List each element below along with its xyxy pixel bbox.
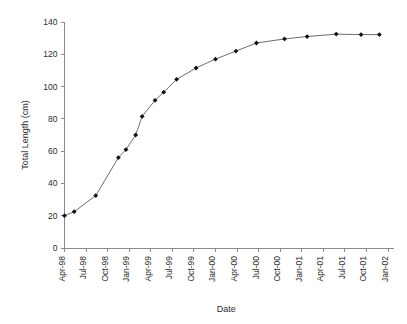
x-tick-label: Oct-01 (358, 256, 368, 282)
data-point-marker (377, 32, 382, 37)
x-tick-label: Apr-00 (229, 256, 239, 282)
data-point-marker (334, 32, 339, 37)
data-point-marker (254, 41, 259, 46)
y-tick-label: 140 (43, 17, 57, 27)
y-tick-label: 100 (43, 82, 57, 92)
x-tick-label: Jul-01 (337, 256, 347, 279)
x-tick-label: Apr-99 (143, 256, 153, 282)
x-tick-label: Jan-99 (121, 256, 131, 282)
data-point-marker (62, 213, 67, 218)
x-tick-label: Jul-00 (251, 256, 261, 279)
data-point-marker (305, 34, 310, 39)
data-point-marker (359, 32, 364, 37)
x-tick-label: Jan-00 (207, 256, 217, 282)
series-line-total-length (65, 34, 380, 216)
x-tick-label: Oct-99 (186, 256, 196, 282)
y-tick-label: 40 (48, 178, 58, 188)
data-point-marker (194, 66, 199, 71)
y-tick-label: 20 (48, 211, 58, 221)
y-tick-label: 80 (48, 114, 58, 124)
chart-figure: 020406080100120140Apr-98Jul-98Oct-98Jan-… (0, 0, 407, 324)
x-tick-label: Jan-01 (294, 256, 304, 282)
x-tick-label: Oct-98 (100, 256, 110, 282)
data-point-marker (282, 37, 287, 42)
x-tick-label: Apr-01 (315, 256, 325, 282)
y-tick-label: 0 (53, 243, 58, 253)
data-point-marker (213, 57, 218, 62)
x-axis-title: Date (217, 304, 236, 314)
x-tick-label: Jul-98 (78, 256, 88, 279)
y-axis-title: Total Length (cm) (20, 100, 30, 170)
y-tick-label: 60 (48, 146, 58, 156)
y-tick-label: 120 (43, 49, 57, 59)
data-point-marker (234, 49, 239, 54)
x-tick-label: Apr-98 (57, 256, 67, 282)
x-tick-label: Jul-99 (164, 256, 174, 279)
x-tick-label: Jan-02 (380, 256, 390, 282)
x-tick-label: Oct-00 (272, 256, 282, 282)
